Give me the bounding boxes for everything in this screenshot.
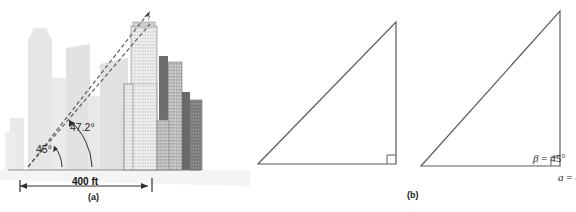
dimension-arrow-right (141, 183, 148, 189)
angle-label-47-2: 47.2° (70, 121, 95, 133)
triangle-beta-group (258, 22, 396, 164)
city-illustration-svg (0, 0, 250, 212)
beta-value: 45° (550, 152, 565, 164)
caption-panel-b: (b) (407, 190, 419, 200)
triangle-beta-base-label: a = 400 ft (558, 171, 576, 183)
main-tower-base-block (124, 84, 133, 170)
triangle-beta-prime-group (421, 11, 560, 166)
baseline-label-400ft: 400 ft (72, 176, 98, 187)
background-tower-squat (5, 132, 15, 170)
ground-plane (0, 170, 250, 186)
mid-tower-right (168, 62, 182, 170)
triangle-beta-right-angle-marker (387, 155, 396, 164)
dark-tower-far (182, 92, 190, 170)
figure-container: 45° 47.2° 400 ft (a) β = 45° a = 400 ft … (0, 0, 576, 212)
sight-line-arrowhead (144, 11, 150, 22)
triangle-beta-angle-label: β = 45° (533, 152, 566, 164)
background-tower-short (88, 96, 102, 170)
triangle-beta-prime-outline (421, 11, 560, 166)
panel-b-triangles: β = 45° a = 400 ft b β′ = 47.2° a = 400 … (250, 0, 576, 212)
right-towers-group (157, 56, 202, 170)
caption-panel-a: (a) (88, 192, 99, 202)
main-tower-cap (133, 22, 155, 27)
dimension-arrow-left (20, 183, 27, 189)
base-value: = 400 ft (564, 171, 576, 183)
low-block-right (157, 120, 169, 170)
background-tower-slab (66, 44, 90, 170)
main-tower-group (124, 22, 157, 170)
triangles-svg (250, 0, 576, 212)
background-skyline-group (5, 28, 132, 170)
panel-a-city-illustration: 45° 47.2° 400 ft (a) (0, 0, 250, 212)
beta-equals: = (538, 152, 550, 164)
main-tower-shaft (131, 26, 157, 170)
triangle-beta-outline (258, 22, 396, 164)
short-tower-far-right (190, 100, 202, 170)
angle-label-45: 45° (36, 143, 52, 155)
